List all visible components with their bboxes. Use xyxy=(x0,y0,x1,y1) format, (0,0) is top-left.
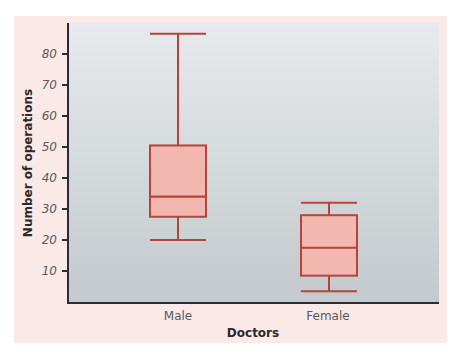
x-category-label-male: Male xyxy=(164,309,192,323)
plot-area xyxy=(68,23,439,303)
y-tick-label: 70 xyxy=(42,78,58,92)
iqr-box xyxy=(150,145,206,216)
x-category-label-female: Female xyxy=(306,309,349,323)
box-plot-chart: 1020304050607080 Male Female Doctors Num… xyxy=(0,0,462,359)
y-tick-label: 10 xyxy=(42,264,58,278)
y-tick-label: 80 xyxy=(42,47,58,61)
y-tick-label: 40 xyxy=(42,171,58,185)
x-axis-title: Doctors xyxy=(227,326,279,340)
y-tick-label: 50 xyxy=(42,140,58,154)
y-tick-label: 20 xyxy=(42,233,58,247)
y-tick-label: 30 xyxy=(42,202,58,216)
y-axis-ticks: 1020304050607080 xyxy=(42,47,68,278)
y-axis-title: Number of operations xyxy=(21,89,35,237)
iqr-box xyxy=(301,215,357,275)
y-tick-label: 60 xyxy=(42,109,58,123)
